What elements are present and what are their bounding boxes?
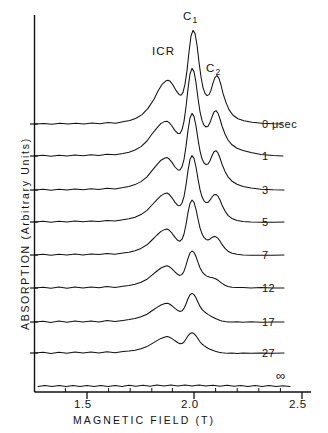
trace-label-27usec: 27 <box>262 347 275 359</box>
peak-label-icr: ICR <box>152 45 175 57</box>
trace-label-17usec: 17 <box>262 316 275 328</box>
peak-label-c1-sub: 1 <box>192 15 197 25</box>
trace-label-1usec: 1 <box>262 150 269 162</box>
spectra-traces <box>35 30 290 386</box>
peak-label-c2: C2 <box>206 62 220 77</box>
trace-12usec <box>35 251 284 288</box>
x-tick-label-1: 1.5 <box>74 398 92 410</box>
trace-label-infinity: ∞ <box>276 369 285 382</box>
trace-label-12usec: 12 <box>262 282 275 294</box>
figure-magneto-absorption: ICR C1 C2 0 μsec 1 3 5 7 12 17 27 ∞ 1.5 … <box>0 0 328 433</box>
trace-17usec <box>35 293 284 322</box>
x-tick-label-3: 2.5 <box>289 398 307 410</box>
trace-label-5usec: 5 <box>262 216 269 228</box>
trace-label-0usec: 0 μsec <box>262 118 297 130</box>
trace-1usec <box>35 68 283 156</box>
peak-label-c2-sub: 2 <box>215 67 220 77</box>
peak-label-c1: C1 <box>183 10 197 25</box>
trace-27usec <box>35 333 284 354</box>
trace-7usec <box>35 200 284 255</box>
peak-label-c2-base: C <box>206 62 215 74</box>
trace-label-7usec: 7 <box>262 249 269 261</box>
trace-infinity <box>38 385 290 387</box>
peak-label-c1-base: C <box>183 10 192 22</box>
y-axis-caption: ABSORPTION (Arbitrary Units) <box>19 137 31 330</box>
x-tick-label-2: 2.0 <box>181 398 199 410</box>
axis-lines <box>35 15 312 392</box>
x-axis-caption: MAGNETIC FIELD (T) <box>73 414 215 426</box>
trace-label-3usec: 3 <box>262 184 269 196</box>
